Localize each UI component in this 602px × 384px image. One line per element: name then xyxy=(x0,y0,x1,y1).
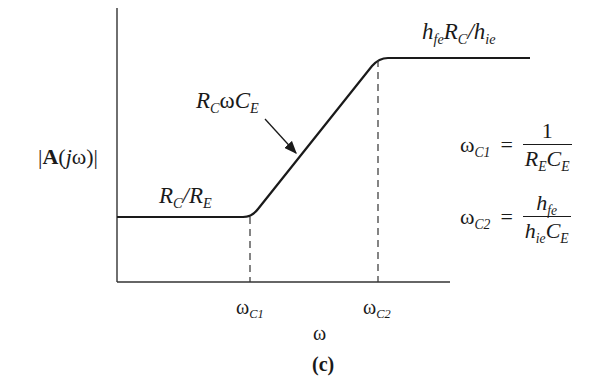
wc2-tick-label: ωC2 xyxy=(363,297,391,317)
low-band-label: RC/RE xyxy=(159,184,212,207)
y-axis-label: |A(jω)| xyxy=(38,146,98,168)
x-axis-label: ω xyxy=(313,323,326,343)
wc2-equation: ωC2 = hfe hieCE xyxy=(460,192,571,242)
high-band-label: hfeRC/hie xyxy=(422,20,496,43)
wc1-equation: ωC1 = 1 RECE xyxy=(460,120,572,170)
slope-arrow xyxy=(265,119,296,153)
slope-label: RCωCE xyxy=(196,89,259,112)
figure-caption: (c) xyxy=(312,354,334,374)
wc1-tick-label: ωC1 xyxy=(236,297,264,317)
